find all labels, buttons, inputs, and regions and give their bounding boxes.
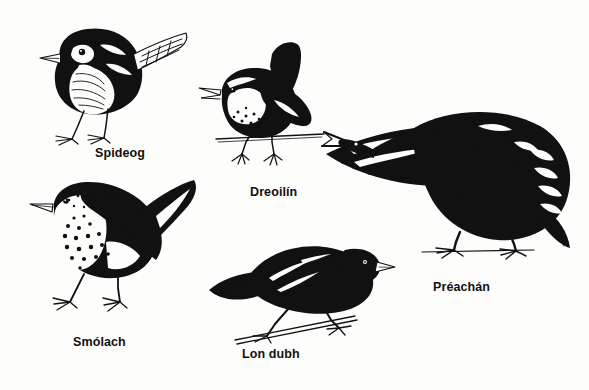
bird-label-preachan: Préachán (433, 281, 490, 294)
bird-label-spideog: Spideog (95, 147, 145, 160)
bird-illustration-plate: Spideog (0, 0, 589, 390)
thrush-bird-icon (22, 160, 202, 320)
bird-label-londubh: Lon dubh (242, 348, 300, 361)
bird-label-dreoilin: Dreoilín (250, 186, 297, 199)
crow-bird-icon (318, 92, 584, 264)
robin-bird-icon (16, 12, 206, 147)
bird-label-smolach: Smólach (73, 336, 126, 349)
